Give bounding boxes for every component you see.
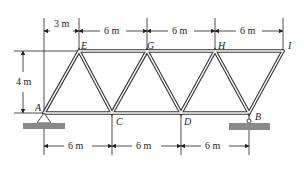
node-label-I: I [288, 41, 291, 51]
dim-bottom-3: 6 m [203, 141, 222, 151]
dim-bottom-2: 6 m [134, 141, 153, 151]
node-label-A: A [35, 103, 41, 113]
truss-members [44, 51, 283, 113]
extension-lines [14, 18, 283, 155]
node-label-B: B [255, 112, 261, 122]
dim-top-2: 6 m [170, 26, 189, 36]
pin-support-A [23, 113, 65, 129]
node-label-E: E [81, 41, 87, 51]
node-label-H: H [218, 41, 225, 51]
node-label-G: G [147, 41, 154, 51]
dim-bottom-1: 6 m [66, 141, 85, 151]
dim-top-offset: 3 m [52, 19, 71, 29]
dim-top-3: 6 m [238, 26, 257, 36]
dim-top-1: 6 m [102, 26, 121, 36]
node-label-D: D [184, 117, 191, 127]
node-label-C: C [116, 117, 123, 127]
dim-height: 4 m [14, 77, 33, 87]
